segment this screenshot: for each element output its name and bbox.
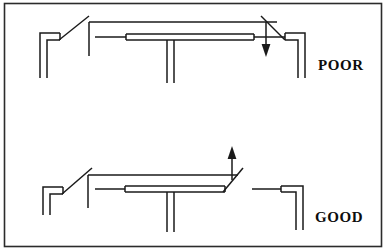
duct-detail-diagram: POOR GOOD (0, 0, 386, 250)
figure-root: POOR GOOD (0, 0, 386, 250)
panel-label-good: GOOD (315, 209, 363, 225)
panel-label-poor: POOR (318, 57, 364, 73)
